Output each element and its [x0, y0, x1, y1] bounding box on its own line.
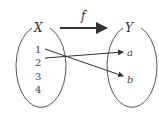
codomain-element-a: a	[127, 47, 133, 58]
codomain-set-ellipse	[107, 28, 157, 107]
domain-element-3: 3	[35, 71, 41, 82]
domain-element-1: 1	[35, 44, 41, 55]
domain-element-4: 4	[35, 84, 41, 95]
domain-element-2: 2	[35, 57, 41, 68]
domain-label: X	[33, 21, 43, 35]
codomain-label: Y	[125, 21, 134, 35]
function-diagram: X Y f 1 2 3 4 a b	[0, 0, 159, 113]
function-label: f	[80, 9, 88, 23]
codomain-element-b: b	[127, 74, 133, 85]
